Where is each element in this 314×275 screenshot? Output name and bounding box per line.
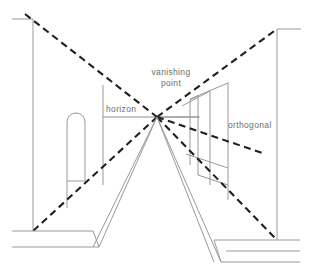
right-wall-transom-mid [182,91,210,106]
vanishing-point-label: vanishing point [136,67,206,89]
orthogonal-lower-left [33,117,157,231]
perspective-drawing-canvas [0,0,314,275]
left-wall-group [12,19,103,231]
perspective-diagram: vanishing point horizon orthogonal [0,0,314,275]
orthogonal-label: orthogonal [228,120,272,131]
right-wall-sill-outer [210,162,228,168]
right-wall-bay-base [198,175,228,185]
floor-left-edge-b [99,117,157,247]
orthogonal-upper-left [25,14,157,117]
left-wall-arched-opening [67,113,85,181]
floor-right-edge-b [157,117,221,262]
right-wall-group [157,29,301,240]
vanishing-point-label-line2: point [136,78,206,89]
floor-right-edge-a [157,117,214,262]
orthogonal-lower-right [157,117,277,240]
floor-right-kerb-return [214,240,221,262]
horizon-label: horizon [106,104,136,115]
vanishing-point-label-line1: vanishing [151,67,190,77]
floor-group [12,117,300,262]
